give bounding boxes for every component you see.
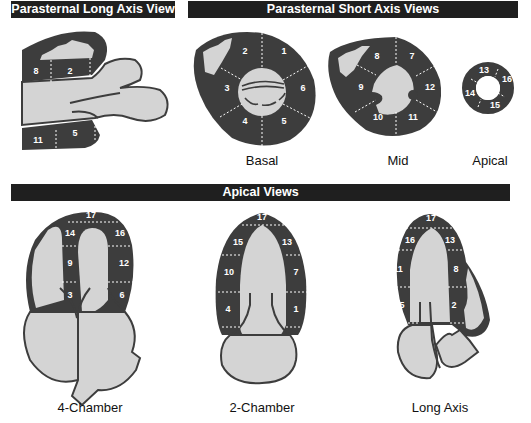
segment-label: 8 — [33, 66, 38, 76]
segment-label: 13 — [445, 235, 455, 245]
segment-label: 7 — [409, 51, 414, 61]
caption-2-chamber: 2-Chamber — [212, 400, 312, 415]
segment-label: 17 — [426, 213, 436, 223]
caption-4-chamber: 4-Chamber — [40, 400, 140, 415]
long-axis-diagram: 17 16 13 11 8 5 2 — [393, 213, 490, 378]
segment-label: 1 — [281, 46, 286, 56]
segment-label: 10 — [224, 267, 234, 277]
segment-label: 11 — [33, 135, 43, 145]
caption-long-axis: Long Axis — [390, 400, 490, 415]
segment-label: 9 — [358, 82, 363, 92]
segment-label: 5 — [399, 300, 404, 310]
four-chamber-diagram: 17 14 16 9 12 3 6 — [24, 210, 140, 405]
segment-label: 3 — [224, 83, 229, 93]
psax-apical-diagram: 13 14 15 16 — [465, 65, 512, 110]
segment-label: 16 — [115, 228, 125, 238]
segment-label: 1 — [293, 304, 298, 314]
segment-label: 2 — [67, 66, 72, 76]
segment-label: 8 — [453, 264, 458, 274]
segment-label: 2 — [242, 46, 247, 56]
segment-label: 12 — [425, 82, 435, 92]
segment-label: 9 — [67, 258, 72, 268]
caption-apical-sax: Apical — [460, 153, 520, 168]
segment-label: 5 — [72, 128, 77, 138]
segment-label: 17 — [257, 212, 267, 222]
segment-label: 12 — [119, 258, 129, 268]
segment-label: 14 — [465, 88, 475, 98]
segment-label: 8 — [374, 51, 379, 61]
segment-label: 13 — [479, 65, 489, 75]
two-chamber-diagram: 17 15 13 10 7 4 1 — [216, 212, 308, 383]
diagram-canvas: 8 2 11 5 2 1 3 6 4 5 — [0, 0, 531, 423]
segment-label: 4 — [225, 304, 230, 314]
segment-label: 17 — [86, 210, 96, 220]
segment-label: 7 — [293, 267, 298, 277]
caption-basal: Basal — [232, 153, 292, 168]
segment-label: 5 — [281, 116, 286, 126]
segment-label: 2 — [451, 300, 456, 310]
segment-label: 15 — [490, 100, 500, 110]
psax-basal-diagram: 2 1 3 6 4 5 — [194, 32, 316, 150]
segment-label: 11 — [408, 112, 418, 122]
segment-label: 6 — [119, 290, 124, 300]
segment-label: 15 — [233, 237, 243, 247]
segment-label: 10 — [373, 112, 383, 122]
segment-label: 11 — [393, 264, 403, 274]
psax-mid-diagram: 8 7 9 12 10 11 — [328, 37, 441, 136]
segment-label: 16 — [405, 235, 415, 245]
segment-label: 6 — [300, 83, 305, 93]
caption-mid: Mid — [368, 153, 428, 168]
segment-label: 14 — [65, 228, 75, 238]
segment-label: 3 — [67, 290, 72, 300]
segment-label: 13 — [282, 237, 292, 247]
segment-label: 16 — [502, 74, 512, 84]
segment-label: 4 — [242, 116, 247, 126]
plax-diagram: 8 2 11 5 — [22, 31, 168, 150]
